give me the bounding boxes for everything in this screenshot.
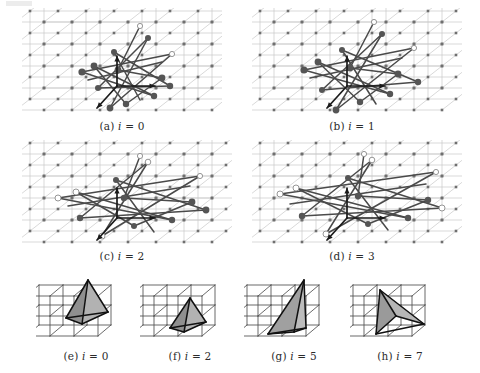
- tetrahedron-e: [66, 280, 108, 324]
- panel-a-canvas: [22, 8, 222, 118]
- lattice-a: [22, 8, 222, 111]
- graph-c: [55, 153, 209, 240]
- caption-c: (c) i = 2: [22, 250, 222, 262]
- caption-b-value: 1: [368, 120, 375, 132]
- caption-d-var: i: [348, 250, 352, 262]
- tetrahedron-g: [268, 280, 306, 334]
- panel-d: [252, 140, 462, 250]
- caption-c-value: 2: [138, 250, 145, 262]
- caption-g-eq: =: [297, 350, 306, 362]
- caption-g: (g) i = 5: [234, 350, 354, 362]
- caption-e-var: i: [82, 350, 86, 362]
- panel-h-canvas: [350, 272, 450, 346]
- caption-c-var: i: [118, 250, 122, 262]
- caption-b-var: i: [348, 120, 352, 132]
- panel-e-canvas: [36, 272, 136, 346]
- caption-d-tag: (d): [329, 250, 345, 262]
- caption-g-value: 5: [310, 350, 317, 362]
- caption-h-value: 7: [416, 350, 423, 362]
- caption-a: (a) i = 0: [22, 120, 222, 132]
- panel-f: [140, 272, 240, 346]
- caption-f-var: i: [185, 350, 189, 362]
- caption-a-eq: =: [125, 120, 134, 132]
- caption-d-value: 3: [368, 250, 375, 262]
- caption-e-tag: (e): [63, 350, 78, 362]
- caption-f-tag: (f): [169, 350, 182, 362]
- caption-e-value: 0: [102, 350, 109, 362]
- caption-h-var: i: [396, 350, 400, 362]
- panel-g-canvas: [244, 272, 344, 346]
- caption-b: (b) i = 1: [252, 120, 452, 132]
- scan-artifact: [6, 1, 32, 6]
- caption-g-var: i: [290, 350, 294, 362]
- figure-root: (a) i = 0 (b) i = 1 (c) i = 2 (d: [0, 0, 480, 373]
- caption-h-tag: (h): [377, 350, 393, 362]
- panel-b: [252, 8, 462, 118]
- panel-f-canvas: [140, 272, 240, 346]
- panel-g: [244, 272, 344, 346]
- caption-f-value: 2: [205, 350, 212, 362]
- caption-a-var: i: [118, 120, 122, 132]
- panel-h: [350, 272, 450, 346]
- caption-e-eq: =: [89, 350, 98, 362]
- caption-c-tag: (c): [100, 250, 115, 262]
- caption-b-tag: (b): [329, 120, 345, 132]
- caption-d: (d) i = 3: [252, 250, 452, 262]
- panel-c: [22, 140, 232, 250]
- caption-f: (f) i = 2: [130, 350, 250, 362]
- caption-e: (e) i = 0: [26, 350, 146, 362]
- tetrahedron-f: [170, 298, 206, 332]
- caption-d-eq: =: [355, 250, 364, 262]
- panel-b-canvas: [252, 8, 462, 118]
- caption-h-eq: =: [403, 350, 412, 362]
- caption-h: (h) i = 7: [340, 350, 460, 362]
- caption-a-tag: (a): [99, 120, 114, 132]
- caption-g-tag: (g): [271, 350, 287, 362]
- panel-d-canvas: [252, 140, 462, 250]
- caption-c-eq: =: [125, 250, 134, 262]
- panel-e: [36, 272, 136, 346]
- caption-a-value: 0: [138, 120, 145, 132]
- lattice-d: [252, 140, 462, 243]
- panel-c-canvas: [22, 140, 232, 250]
- caption-b-eq: =: [355, 120, 364, 132]
- panel-a: [22, 8, 222, 118]
- caption-f-eq: =: [192, 350, 201, 362]
